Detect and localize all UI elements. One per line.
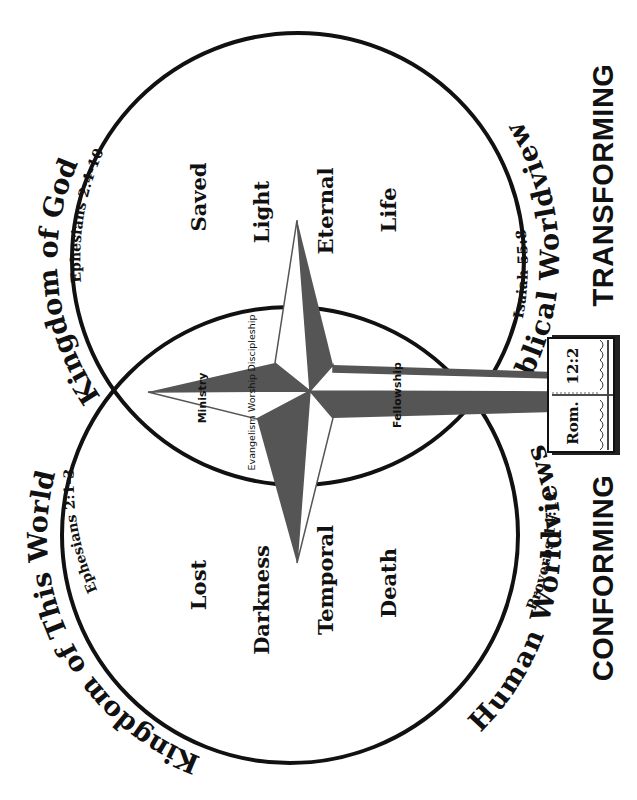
word-lost: Lost	[186, 560, 211, 611]
word-death: Death	[376, 548, 401, 618]
facet-worship: Worship	[246, 374, 257, 412]
facet-fellowship: Fellowship	[391, 362, 404, 428]
venn-diagram: Kingdom of God Ephesians 2:4-10 Kingdom …	[0, 0, 637, 800]
facet-evangelism: Evangelism	[246, 416, 257, 471]
facet-ministry: Ministry	[196, 373, 209, 424]
book-label-rom: Rom.	[564, 401, 582, 445]
open-bible-icon: Rom. 12:2	[548, 335, 620, 455]
conforming-label: CONFORMING	[587, 475, 619, 681]
transforming-label: TRANSFORMING	[587, 64, 619, 307]
word-temporal: Temporal	[313, 525, 338, 635]
facet-discipleship: Discipleship	[246, 315, 257, 372]
word-saved: Saved	[186, 162, 211, 231]
word-light: Light	[249, 181, 274, 244]
book-label-12-2: 12:2	[564, 348, 582, 385]
word-eternal: Eternal	[313, 167, 338, 254]
cross-star-icon	[148, 220, 555, 563]
isaiah-reference: Isaiah 55:8	[510, 229, 531, 320]
word-darkness: Darkness	[249, 545, 274, 655]
word-life: Life	[376, 187, 401, 232]
